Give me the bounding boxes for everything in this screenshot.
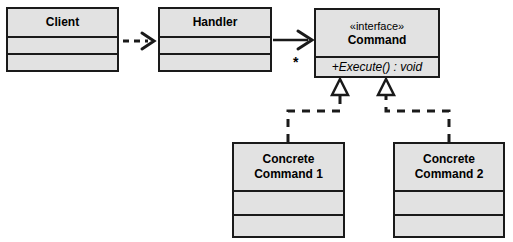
class-box-handler[interactable]: Handler	[158, 7, 272, 72]
concrete-command-2-operations-compartment	[395, 214, 503, 238]
concrete-command-2-class-name-line-1: Concrete	[423, 152, 475, 167]
connector-client-to-handler	[123, 33, 154, 49]
multiplicity-label-command: *	[293, 55, 298, 69]
class-box-concrete-command-2[interactable]: Concrete Command 2	[393, 142, 505, 238]
command-operations-compartment: +Execute() : void	[316, 56, 438, 76]
client-name-compartment: Client	[8, 9, 117, 36]
concrete-command-2-name-compartment: Concrete Command 2	[395, 144, 503, 190]
concrete-command-1-attributes-compartment	[234, 190, 343, 214]
concrete-command-1-class-name-line-2: Command 1	[254, 167, 323, 182]
concrete-command-2-class-name-line-2: Command 2	[415, 167, 484, 182]
command-name-compartment: «interface» Command	[316, 10, 438, 56]
handler-class-name: Handler	[193, 15, 238, 30]
connector-concrete-command-2-to-command	[378, 79, 449, 142]
client-operations-compartment	[8, 53, 117, 70]
client-attributes-compartment	[8, 36, 117, 53]
class-box-command[interactable]: «interface» Command +Execute() : void	[314, 8, 440, 78]
connector-concrete-command-1-to-command	[288, 79, 348, 142]
concrete-command-2-attributes-compartment	[395, 190, 503, 214]
handler-name-compartment: Handler	[160, 9, 270, 36]
concrete-command-1-name-compartment: Concrete Command 1	[234, 144, 343, 190]
handler-operations-compartment	[160, 53, 270, 70]
uml-class-diagram: Client Handler «interface» Command +Exec…	[0, 0, 513, 242]
command-class-name: Command	[348, 33, 407, 48]
handler-attributes-compartment	[160, 36, 270, 53]
class-box-concrete-command-1[interactable]: Concrete Command 1	[232, 142, 345, 238]
client-class-name: Client	[46, 15, 79, 30]
concrete-command-1-class-name-line-1: Concrete	[262, 152, 314, 167]
command-stereotype: «interface»	[350, 19, 404, 33]
connector-handler-to-command	[273, 31, 312, 49]
command-execute-operation: +Execute() : void	[332, 60, 422, 75]
class-box-client[interactable]: Client	[6, 7, 119, 72]
concrete-command-1-operations-compartment	[234, 214, 343, 238]
